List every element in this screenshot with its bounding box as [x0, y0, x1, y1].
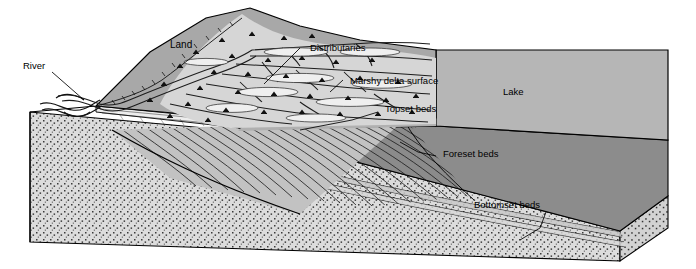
leader-river: [52, 72, 84, 100]
river-channel: [40, 94, 102, 116]
delta-block-diagram: River Land Distributaries Marshy delta s…: [0, 0, 696, 269]
label-marshy-delta-surface: Marshy delta surface: [350, 75, 438, 86]
label-bottomset-beds: Bottomset beds: [474, 199, 540, 210]
label-foreset-beds: Foreset beds: [443, 148, 499, 159]
label-topset-beds: Topset beds: [385, 103, 436, 114]
label-lake: Lake: [503, 86, 524, 97]
label-land: Land: [170, 39, 192, 50]
label-distributaries: Distributaries: [310, 42, 366, 53]
diagram-canvas: River Land Distributaries Marshy delta s…: [0, 0, 696, 269]
label-river: River: [23, 60, 45, 71]
